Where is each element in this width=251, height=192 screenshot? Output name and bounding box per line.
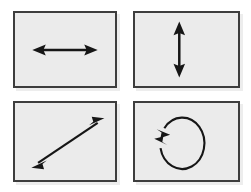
panel-rotation-motion [133, 101, 240, 182]
vertical-double-arrow-icon [135, 13, 238, 86]
panel-diagonal-motion [13, 101, 117, 182]
direction-of-motion-figure [0, 0, 251, 192]
horizontal-double-arrow-icon [15, 13, 115, 86]
panel-vertical-motion [133, 11, 240, 88]
panel-horizontal-motion [13, 11, 117, 88]
circular-rotation-arrow-icon [135, 103, 238, 180]
diagonal-double-arrow-icon [15, 103, 115, 180]
